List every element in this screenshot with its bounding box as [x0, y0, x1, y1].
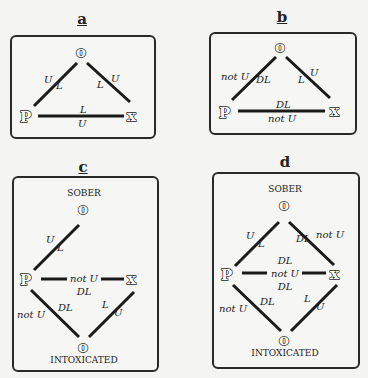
state-intoxicated-label: INTOXICATED — [251, 348, 318, 358]
edge-p-o-top — [235, 222, 279, 266]
edge-x-o-bottom-inner-label: L — [303, 293, 311, 304]
panel-d-diagram: SOBER o U L DL not U P DL not U DL x not… — [0, 0, 368, 378]
edge-p-o-bottom-outer-label: not U — [219, 303, 248, 314]
edge-x-o-bottom — [291, 285, 337, 331]
edge-p-x-upper-label: DL — [277, 255, 293, 266]
edge-o-top-x-inner-label: DL — [295, 233, 311, 244]
edge-p-o-top-lower-label: L — [257, 238, 265, 249]
edge-p-x-middle-label: not U — [271, 268, 300, 279]
node-o-top: o — [279, 196, 289, 214]
node-p: P — [221, 266, 232, 284]
node-x: x — [330, 265, 340, 283]
edge-p-o-top-upper-label: U — [246, 230, 255, 241]
edge-p-x-lower-label: DL — [277, 281, 293, 292]
edge-p-o-bottom-inner-label: DL — [259, 296, 275, 307]
edge-x-o-bottom-outer-label: U — [316, 301, 325, 312]
edge-o-top-x-outer-label: not U — [316, 229, 345, 240]
node-o-bottom: o — [279, 331, 289, 349]
state-sober-label: SOBER — [268, 184, 302, 194]
